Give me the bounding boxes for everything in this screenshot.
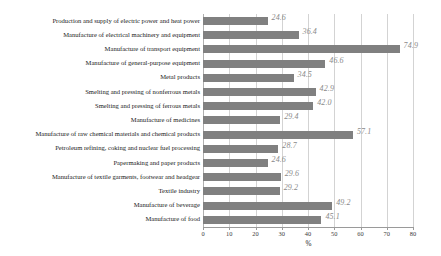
- x-tick-label: 40: [305, 230, 311, 237]
- category-label: Smelting and pressing of ferrous metals: [0, 103, 200, 110]
- bar-value-label: 74.9: [404, 41, 418, 50]
- bar-value-label: 29.6: [285, 169, 299, 178]
- bar-row: 29.4: [203, 113, 413, 128]
- bar: [203, 102, 313, 110]
- bar: [203, 159, 268, 167]
- bar: [203, 116, 280, 124]
- x-tick-label: 80: [410, 230, 416, 237]
- category-label: Smelting and pressing of nonferrous meta…: [0, 89, 200, 96]
- category-label: Manufacture of general-purpose equipment: [0, 60, 200, 67]
- bar-row: 49.2: [203, 199, 413, 214]
- x-tick-label: 60: [357, 230, 363, 237]
- bar-row: 29.2: [203, 184, 413, 199]
- bar-row: 42.9: [203, 85, 413, 100]
- bar-row: 29.6: [203, 170, 413, 185]
- bar: [203, 60, 325, 68]
- bar-chart: Production and supply of electric power …: [0, 0, 441, 256]
- plot-area: 24.636.474.946.634.542.942.029.457.128.7…: [203, 14, 413, 227]
- bar: [203, 202, 332, 210]
- category-label: Manufacture of beverage: [0, 202, 200, 209]
- category-label: Manufacture of electrical machinery and …: [0, 32, 200, 39]
- bar-row: 36.4: [203, 28, 413, 43]
- category-label: Petroleum refining, coking and nuclear f…: [0, 145, 200, 152]
- bar: [203, 88, 316, 96]
- bar-row: 28.7: [203, 142, 413, 157]
- bar-value-label: 57.1: [357, 127, 371, 136]
- category-label: Manufacture of transport equipment: [0, 46, 200, 53]
- bar-value-label: 42.0: [317, 98, 331, 107]
- bar-value-label: 29.4: [284, 112, 298, 121]
- bar-row: 24.6: [203, 156, 413, 171]
- x-tick-label: 70: [384, 230, 390, 237]
- bar: [203, 216, 321, 224]
- bar: [203, 131, 353, 139]
- bar-value-label: 36.4: [303, 27, 317, 36]
- x-tick-label: 30: [279, 230, 285, 237]
- x-tick-label: 20: [252, 230, 258, 237]
- bar-value-label: 29.2: [284, 183, 298, 192]
- bar-value-label: 46.6: [329, 56, 343, 65]
- bar-value-label: 49.2: [336, 198, 350, 207]
- category-label: Manufacture of textile garments, footwea…: [0, 174, 200, 181]
- x-tick-label: 0: [201, 230, 204, 237]
- bar-value-label: 24.6: [272, 13, 286, 22]
- x-tick-label: 50: [331, 230, 337, 237]
- category-label: Metal products: [0, 74, 200, 81]
- bar: [203, 173, 281, 181]
- category-label: Textile industry: [0, 188, 200, 195]
- bar-value-label: 34.5: [298, 70, 312, 79]
- bar-value-label: 45.1: [325, 212, 339, 221]
- bar: [203, 74, 294, 82]
- category-label: Manufacture of food: [0, 216, 200, 223]
- bar: [203, 17, 268, 25]
- category-label: Manufacture of raw chemical materials an…: [0, 131, 200, 138]
- bar-row: 74.9: [203, 42, 413, 57]
- x-axis-title: %: [203, 240, 414, 248]
- bar-row: 34.5: [203, 71, 413, 86]
- category-axis: Production and supply of electric power …: [0, 14, 200, 227]
- bar: [203, 31, 299, 39]
- bar: [203, 187, 280, 195]
- bar: [203, 45, 400, 53]
- x-tick-label: 10: [226, 230, 232, 237]
- bar-value-label: 42.9: [320, 84, 334, 93]
- bar: [203, 145, 278, 153]
- category-label: Papermaking and paper products: [0, 160, 200, 167]
- bar-row: 57.1: [203, 128, 413, 143]
- bar-value-label: 28.7: [282, 141, 296, 150]
- bar-row: 45.1: [203, 213, 413, 228]
- bar-value-label: 24.6: [272, 155, 286, 164]
- category-label: Manufacture of medicines: [0, 117, 200, 124]
- category-label: Production and supply of electric power …: [0, 18, 200, 25]
- bar-row: 42.0: [203, 99, 413, 114]
